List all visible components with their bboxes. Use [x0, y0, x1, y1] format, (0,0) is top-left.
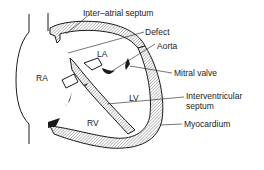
atrial-roof [50, 21, 145, 48]
tricuspid-outline [62, 74, 78, 88]
myocardium [50, 46, 163, 148]
label-myocardium: Myocardium [184, 120, 230, 129]
label-interventricular-line1: Interventricular [186, 92, 242, 101]
label-ra: RA [36, 74, 48, 83]
tricuspid-leaflet-2 [48, 118, 60, 128]
label-inter-atrial-septum: Inter–atrial septum [83, 9, 153, 18]
aorta-outline [84, 58, 102, 70]
label-defect: Defect [145, 28, 170, 37]
heart-diagram [0, 0, 264, 170]
label-lv: LV [129, 94, 139, 103]
label-interventricular-line2: septum [186, 102, 214, 111]
label-rv: RV [87, 119, 99, 128]
mitral-valve-leaflet [102, 68, 116, 74]
label-aorta: Aorta [157, 42, 177, 51]
label-mitral-valve: Mitral valve [174, 69, 217, 78]
label-la: LA [97, 50, 107, 59]
right-atrium-wall [16, 14, 29, 144]
tricuspid-leaflet [64, 92, 72, 108]
